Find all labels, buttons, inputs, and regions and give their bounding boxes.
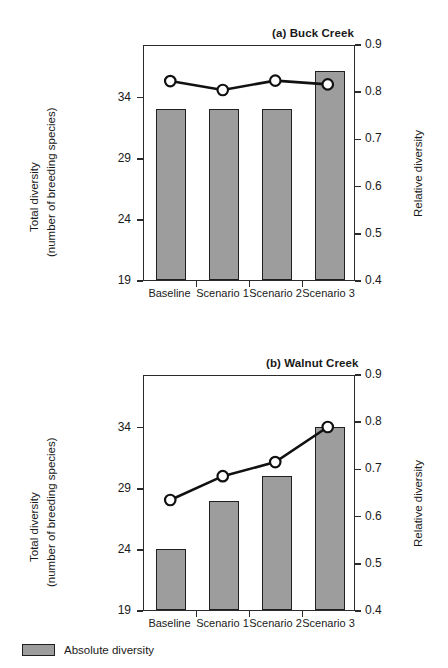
- panel-b-left-axis-title-line2: (number of breeding species): [45, 437, 57, 587]
- x-axis-label-baseline: Baseline: [143, 617, 196, 629]
- right-tick-0.5: [355, 563, 361, 565]
- x-axis-label-baseline: Baseline: [143, 287, 196, 299]
- marker-baseline: [165, 76, 176, 87]
- marker-scenario-2: [270, 457, 281, 468]
- right-tick-label-0-4: 0.4: [365, 273, 399, 287]
- right-tick-label-0-9: 0.9: [365, 367, 399, 381]
- left-tick-19: [137, 610, 143, 612]
- right-tick-0.8: [355, 421, 361, 423]
- left-tick-label-29: 29: [97, 151, 131, 165]
- left-tick-label-29: 29: [97, 481, 131, 495]
- right-tick-0.4: [355, 280, 361, 282]
- panel-a-left-axis-title-line2: (number of breeding species): [45, 107, 57, 257]
- right-tick-label-0-6: 0.6: [365, 179, 399, 193]
- legend-label-absolute-diversity: Absolute diversity: [64, 644, 154, 656]
- left-tick-label-34: 34: [97, 90, 131, 104]
- panel-b-title: (b) Walnut Creek: [266, 357, 359, 369]
- legend: Absolute diversity: [22, 644, 154, 656]
- right-tick-label-0-9: 0.9: [365, 37, 399, 51]
- panel-b-right-axis-title: Relative diversity: [412, 460, 424, 547]
- x-axis-label-scenario-3: Scenario 3: [302, 287, 355, 299]
- right-tick-0.4: [355, 610, 361, 612]
- right-tick-0.5: [355, 233, 361, 235]
- left-tick-label-24: 24: [97, 212, 131, 226]
- right-tick-label-0-4: 0.4: [365, 603, 399, 617]
- panel-a-right-axis-title: Relative diversity: [412, 130, 424, 217]
- figure-root: (a) Buck Creek Total diversity (number o…: [0, 0, 448, 668]
- panel-walnut-creek: (b) Walnut Creek Total diversity (number…: [0, 330, 448, 640]
- left-tick-29: [137, 158, 143, 160]
- marker-scenario-1: [218, 471, 229, 482]
- right-tick-0.7: [355, 469, 361, 471]
- line-path: [170, 427, 328, 500]
- right-tick-0.8: [355, 91, 361, 93]
- right-tick-label-0-8: 0.8: [365, 84, 399, 98]
- marker-scenario-3: [323, 79, 334, 90]
- x-axis-label-scenario-2: Scenario 2: [249, 617, 302, 629]
- line-path: [170, 81, 328, 90]
- left-tick-label-19: 19: [97, 603, 131, 617]
- left-tick-29: [137, 488, 143, 490]
- right-tick-0.6: [355, 186, 361, 188]
- panel-a-relative-diversity-line: [144, 46, 354, 280]
- x-axis-label-scenario-1: Scenario 1: [196, 287, 249, 299]
- x-axis-label-scenario-2: Scenario 2: [249, 287, 302, 299]
- panel-a-title: (a) Buck Creek: [272, 27, 354, 39]
- right-tick-label-0-8: 0.8: [365, 414, 399, 428]
- right-tick-label-0-5: 0.5: [365, 556, 399, 570]
- right-tick-label-0-6: 0.6: [365, 509, 399, 523]
- left-tick-19: [137, 280, 143, 282]
- panel-b-relative-diversity-line: [144, 376, 354, 610]
- panel-a-left-axis-title-line1: Total diversity: [28, 162, 40, 232]
- panel-a-plot-area: [143, 45, 355, 281]
- left-tick-24: [137, 549, 143, 551]
- left-tick-34: [137, 427, 143, 429]
- panel-b-left-axis-title-line1: Total diversity: [28, 492, 40, 562]
- right-tick-0.7: [355, 139, 361, 141]
- right-tick-0.6: [355, 516, 361, 518]
- x-axis-label-scenario-1: Scenario 1: [196, 617, 249, 629]
- left-tick-label-34: 34: [97, 420, 131, 434]
- marker-scenario-3: [323, 422, 334, 433]
- x-axis-label-scenario-3: Scenario 3: [302, 617, 355, 629]
- right-tick-label-0-5: 0.5: [365, 226, 399, 240]
- left-tick-24: [137, 219, 143, 221]
- right-tick-label-0-7: 0.7: [365, 131, 399, 145]
- left-tick-label-24: 24: [97, 542, 131, 556]
- left-tick-label-19: 19: [97, 273, 131, 287]
- marker-scenario-1: [218, 85, 229, 96]
- panel-buck-creek: (a) Buck Creek Total diversity (number o…: [0, 0, 448, 310]
- right-tick-label-0-7: 0.7: [365, 461, 399, 475]
- panel-b-plot-area: [143, 375, 355, 611]
- marker-scenario-2: [270, 75, 281, 86]
- right-tick-0.9: [355, 44, 361, 46]
- marker-baseline: [165, 495, 176, 506]
- right-tick-0.9: [355, 374, 361, 376]
- left-tick-34: [137, 97, 143, 99]
- absolute-diversity-swatch: [22, 644, 55, 656]
